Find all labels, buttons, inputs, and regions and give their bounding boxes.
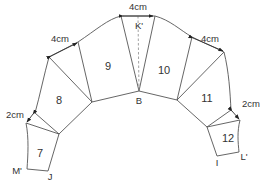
segment-label-11: 11 [201,92,212,104]
outer-edge-left [35,57,49,113]
dim-label-upper-left: 4cm [51,33,69,44]
dim-label-upper-right: 4cm [201,33,219,44]
dim-label-lower-left: 2cm [6,109,24,120]
point-label-i: I [216,157,219,168]
point-label-b: B [136,95,142,106]
dim-arrow-upper-left [51,43,77,56]
point-label-l: L' [240,151,247,162]
line-7-8 [35,113,59,134]
point-label-j: J [48,171,53,182]
segment-label-12: 12 [222,132,234,144]
dim-label-top: 4cm [129,1,147,12]
segment-label-7: 7 [37,147,43,159]
pattern-diagram: 4cm 4cm 4cm 2cm 2cm 7 8 9 10 11 12 K' B … [0,0,263,183]
segment-label-9: 9 [105,60,111,72]
dim-arrow-lower-right [232,111,239,119]
inner-edge [59,91,207,134]
line-7-top [26,123,59,134]
dim-arrow-lower-left [27,114,33,122]
point-label-m: M' [12,165,22,176]
point-label-k: K' [135,20,143,31]
line-10-11 [177,37,192,100]
dim-label-lower-right: 2cm [242,98,260,109]
segment-label-8: 8 [56,94,62,106]
segment-label-10: 10 [158,64,170,76]
line-8-9 [78,42,92,102]
